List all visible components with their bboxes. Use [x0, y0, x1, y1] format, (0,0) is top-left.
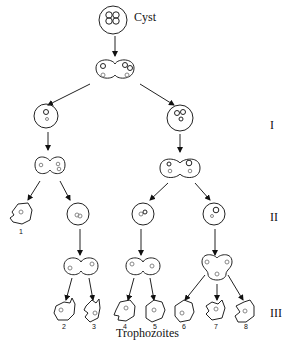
stage-label-iii: III: [270, 306, 282, 321]
stage-label-i: I: [270, 118, 274, 133]
cyst-label: Cyst: [134, 10, 156, 25]
trophozoite-number-8: 8: [244, 323, 248, 330]
excysting-cell: [96, 60, 134, 78]
stage-label-ii: II: [270, 210, 278, 225]
excystation-diagram: [0, 0, 293, 351]
trophozoite-number-3: 3: [92, 323, 96, 330]
trophozoite-number-1: 1: [19, 228, 23, 235]
trophozoite-number-6: 6: [182, 323, 186, 330]
trophozoite-number-2: 2: [62, 323, 66, 330]
trophozoite-number-7: 7: [214, 323, 218, 330]
trophozoites-label: Trophozoites: [116, 326, 179, 341]
